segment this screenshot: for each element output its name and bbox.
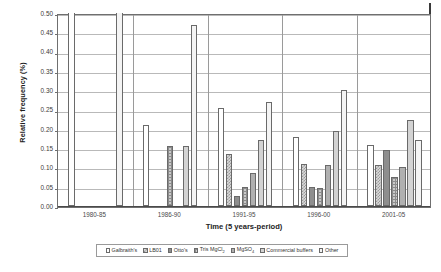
bar-galbraith-s-1991-95 [218, 108, 225, 206]
chart-figure: Relative frequency (%) 0.000.050.100.150… [0, 0, 441, 272]
bar-mgso4-1996-00 [325, 165, 332, 206]
bar-galbraith-s-1986-90 [143, 125, 150, 206]
bar-lb01-2001-05 [375, 165, 382, 206]
legend-item-commercial-buffers[interactable]: Commercial buffers [260, 248, 313, 253]
x-axis-tick-label-2001-05: 2001-05 [364, 211, 424, 218]
bar-lb01-1991-95 [226, 154, 233, 206]
y-axis-tick-label: 0.40 [21, 49, 53, 55]
x-axis-tick-label-1991-95: 1991-95 [214, 211, 274, 218]
x-axis-tick-label-1980-85: 1980-85 [64, 211, 124, 218]
bar-commercial-buffers-1996-00 [333, 131, 340, 206]
legend-item-other[interactable]: Other [319, 248, 338, 253]
legend-item-tris-mgcl2[interactable]: Tris MgCl2 [194, 247, 225, 254]
y-axis-tick-label: 0.05 [21, 185, 53, 191]
bar-mgso4-2001-05 [399, 167, 406, 206]
bar-other-1991-95 [266, 102, 273, 206]
bar-commercial-buffers-1991-95 [258, 140, 265, 206]
bar-galbraith-s-1996-00 [293, 137, 300, 206]
legend-item-galbraith-s[interactable]: Galbraith's [106, 248, 138, 253]
y-axis-tick-label: 0.10 [21, 165, 53, 171]
y-axis-tick [55, 208, 58, 209]
bar-tris-mgcl2-2001-05 [391, 177, 398, 206]
legend-label: Otto's [174, 248, 188, 253]
bar-other-1986-90 [191, 25, 198, 206]
legend-swatch-icon [260, 248, 265, 253]
chart-legend: Galbraith'sLB01Otto'sTris MgCl2MgSO4Comm… [96, 244, 348, 257]
legend-swatch-icon [143, 248, 148, 253]
legend-item-lb01[interactable]: LB01 [143, 248, 162, 253]
y-axis-tick-label: 0.15 [21, 146, 53, 152]
x-axis-title: Time (5 years-period) [57, 222, 431, 231]
y-axis-tick-label: 0.20 [21, 127, 53, 133]
legend-swatch-icon [168, 248, 173, 253]
legend-label: MgSO4 [237, 247, 255, 254]
legend-swatch-icon [106, 248, 111, 253]
x-axis-tick-label-1996-00: 1996-00 [289, 211, 349, 218]
bar-commercial-buffers-1986-90 [183, 146, 190, 206]
y-axis-tick-label: 0.35 [21, 69, 53, 75]
legend-swatch-icon [194, 248, 199, 253]
y-axis-tick-label: 0.30 [21, 88, 53, 94]
legend-label: Commercial buffers [266, 248, 313, 253]
bar-other-1996-00 [341, 90, 348, 206]
bar-tris-mgcl2-1996-00 [317, 188, 324, 206]
bar-other-1980-85 [116, 13, 123, 206]
legend-label: Other [325, 248, 338, 253]
bar-series-container [58, 15, 430, 206]
y-axis-tick-label: 0.50 [21, 11, 53, 17]
legend-label: LB01 [149, 248, 162, 253]
bar-commercial-buffers-2001-05 [407, 120, 414, 206]
bar-other-2001-05 [415, 140, 422, 206]
bar-otto-s-1996-00 [309, 187, 316, 206]
legend-label: Tris MgCl2 [200, 247, 225, 254]
legend-swatch-icon [231, 248, 236, 253]
bar-tris-mgcl2-1986-90 [167, 146, 174, 206]
legend-item-otto-s[interactable]: Otto's [168, 248, 188, 253]
bar-lb01-1996-00 [301, 164, 308, 206]
bar-galbraith-s-1980-85 [68, 13, 75, 206]
x-axis-tick-label-1986-90: 1986-90 [139, 211, 199, 218]
y-axis-tick-label: 0.00 [21, 204, 53, 210]
bar-otto-s-2001-05 [383, 150, 390, 206]
corner-mark-icon [429, 3, 431, 14]
x-axis-line [58, 206, 430, 207]
y-axis-tick-label: 0.45 [21, 30, 53, 36]
y-axis-tick-label: 0.25 [21, 107, 53, 113]
legend-item-mgso4[interactable]: MgSO4 [231, 247, 255, 254]
legend-label: Galbraith's [112, 248, 138, 253]
legend-swatch-icon [319, 248, 324, 253]
bar-otto-s-1991-95 [234, 196, 241, 206]
bar-mgso4-1991-95 [250, 173, 257, 206]
bar-galbraith-s-2001-05 [367, 145, 374, 206]
plot-area [57, 14, 431, 208]
bar-tris-mgcl2-1991-95 [242, 187, 249, 206]
